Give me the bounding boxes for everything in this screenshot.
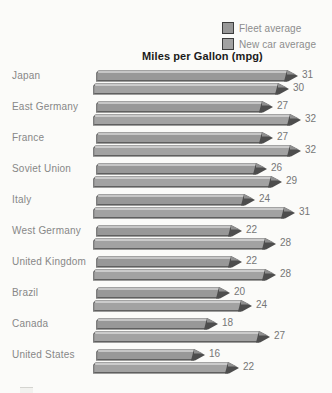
category-label: United Kingdom — [12, 256, 86, 267]
new-car-average-bar — [93, 113, 303, 131]
new-car-average-bar — [93, 299, 254, 317]
new-car-average-bar — [93, 82, 291, 100]
value-label: 28 — [280, 268, 291, 280]
category-label: United States — [12, 349, 75, 360]
cropped-artifact — [20, 387, 33, 393]
new-car-average-swatch-icon — [222, 38, 234, 50]
value-label: 27 — [277, 131, 288, 143]
value-label: 29 — [286, 175, 297, 187]
value-label: 27 — [277, 100, 288, 112]
legend-label: New car average — [239, 39, 316, 50]
new-car-average-bar — [93, 206, 297, 224]
value-label: 27 — [274, 330, 285, 342]
value-label: 16 — [209, 348, 220, 360]
value-label: 30 — [293, 82, 304, 94]
category-label: Italy — [12, 194, 31, 205]
value-label: 22 — [246, 224, 257, 236]
value-label: 28 — [280, 237, 291, 249]
chart-title: Miles per Gallon (mpg) — [95, 50, 310, 62]
legend-item-new-car-average: New car average — [222, 38, 316, 50]
legend-label: Fleet average — [239, 23, 301, 34]
value-label: 24 — [256, 299, 267, 311]
value-label: 32 — [305, 113, 316, 125]
category-label: East Germany — [12, 101, 78, 112]
value-label: 31 — [299, 206, 310, 218]
category-label: Brazil — [12, 287, 38, 298]
new-car-average-bar — [93, 330, 272, 348]
new-car-average-bar — [93, 237, 278, 255]
mpg-bar-chart: Fleet average New car average Miles per … — [0, 0, 332, 393]
value-label: 31 — [302, 69, 313, 81]
category-label: West Germany — [12, 225, 81, 236]
value-label: 32 — [305, 144, 316, 156]
category-label: Japan — [12, 70, 40, 81]
category-label: France — [12, 132, 44, 143]
value-label: 24 — [259, 193, 270, 205]
category-label: Canada — [12, 318, 48, 329]
fleet-average-swatch-icon — [222, 22, 234, 34]
value-label: 22 — [243, 361, 254, 373]
value-label: 22 — [246, 255, 257, 267]
value-label: 26 — [271, 162, 282, 174]
category-label: Soviet Union — [12, 163, 71, 174]
new-car-average-bar — [93, 175, 284, 193]
new-car-average-bar — [93, 361, 241, 379]
value-label: 20 — [234, 286, 245, 298]
new-car-average-bar — [93, 268, 278, 286]
new-car-average-bar — [93, 144, 303, 162]
legend-item-fleet-average: Fleet average — [222, 22, 316, 34]
value-label: 18 — [222, 317, 233, 329]
